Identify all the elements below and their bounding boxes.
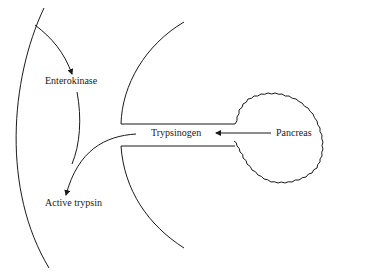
arrow-trypsinogen-to-active-trypsin [66,134,136,195]
intestinal-wall-upper-right [121,22,235,124]
pancreas-outline [234,93,323,183]
label-enterokinase: Enterokinase [45,76,97,86]
intestinal-wall-left [16,8,49,268]
label-active-trypsin: Active trypsin [45,198,102,208]
label-pancreas: Pancreas [276,128,312,138]
arrow-wall-to-enterokinase [35,25,72,74]
diagram-lines [0,0,373,277]
label-trypsinogen: Trypsinogen [151,128,201,138]
line-enterokinase-to-junction [72,92,80,164]
intestinal-wall-lower-right [121,146,235,248]
diagram-canvas: Enterokinase Trypsinogen Pancreas Active… [0,0,373,277]
